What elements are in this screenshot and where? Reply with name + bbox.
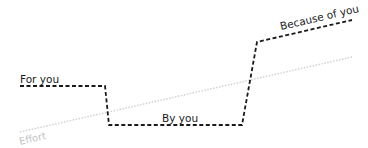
for-you-label: For you [20, 73, 59, 85]
effort-label: Effort [18, 130, 47, 147]
diagram-canvas: For you By you Because of you Effort [0, 0, 368, 148]
main-path-line [20, 20, 352, 125]
by-you-label: By you [162, 112, 198, 124]
